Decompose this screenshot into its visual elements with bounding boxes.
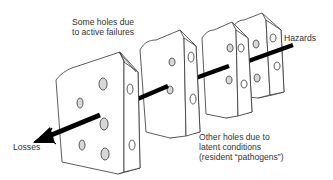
active-failures-line-1: Some holes due <box>72 17 134 27</box>
hazards-label: Hazards <box>284 33 316 43</box>
latent-conditions-line-2: latent conditions <box>199 142 284 152</box>
active-failures-label: Some holes due to active failures <box>72 17 134 37</box>
cheese-slice-3 <box>202 22 252 118</box>
losses-label: Losses <box>13 142 40 152</box>
latent-conditions-line-3: (resident “pathogens”) <box>199 152 284 162</box>
cheese-slice-1 <box>56 52 140 174</box>
active-failures-line-2: to active failures <box>72 27 134 37</box>
cheese-slice-2 <box>140 30 200 138</box>
latent-conditions-label: Other holes due to latent conditions (re… <box>199 132 284 162</box>
latent-conditions-line-1: Other holes due to <box>199 132 284 142</box>
